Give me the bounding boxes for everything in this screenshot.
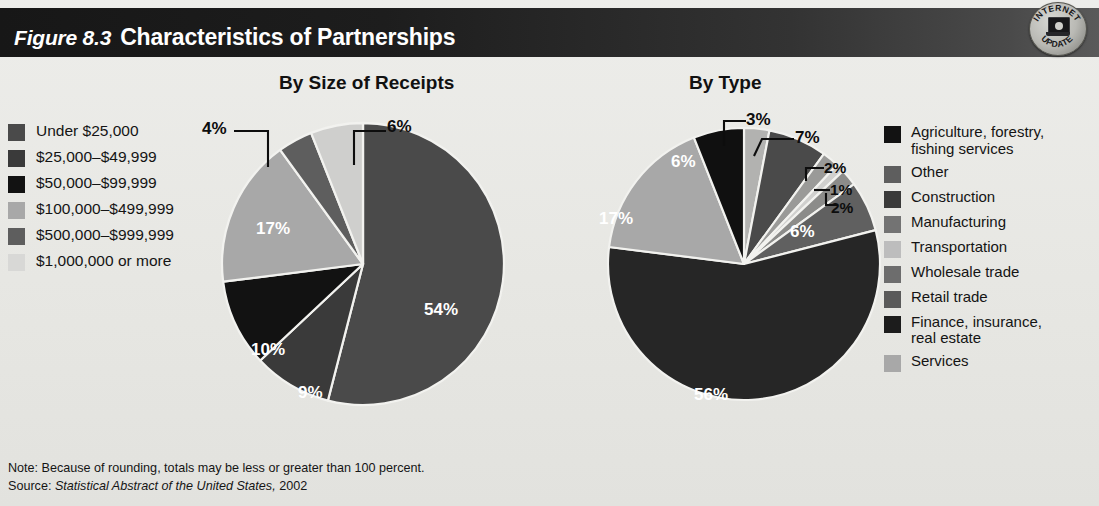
- legend-item[interactable]: Construction: [884, 189, 1094, 208]
- footer-source: Source: Statistical Abstract of the Unit…: [8, 478, 708, 496]
- figure-number: Figure 8.3: [14, 26, 111, 49]
- leader-line-6: [348, 125, 408, 175]
- chart-title-by-size-of-receipts: By Size of Receipts: [279, 72, 454, 94]
- slice-label-6-agriculture: 6%: [671, 152, 696, 172]
- figure-title-text: Characteristics of Partnerships: [120, 24, 455, 50]
- legend-item-label: Finance, insurance,real estate: [911, 314, 1042, 348]
- page-title: Figure 8.3Characteristics of Partnership…: [14, 24, 455, 51]
- legend-swatch-icon: [884, 316, 901, 333]
- slice-label-4: 4%: [202, 119, 227, 139]
- legend-item[interactable]: $25,000–$49,999: [8, 148, 198, 167]
- legend-by-type: Agriculture, forestry,fishing services O…: [884, 124, 1094, 378]
- legend-swatch-icon: [884, 241, 901, 258]
- legend-item[interactable]: Wholesale trade: [884, 264, 1094, 283]
- legend-swatch-icon: [884, 191, 901, 208]
- legend-item-label: $25,000–$49,999: [36, 148, 157, 165]
- slice-label-10: 10%: [251, 340, 285, 360]
- legend-item-label: Other: [911, 164, 949, 181]
- legend-swatch-icon: [884, 355, 901, 372]
- legend-swatch-icon: [884, 291, 901, 308]
- slice-label-9: 9%: [298, 383, 323, 403]
- legend-swatch-icon: [884, 266, 901, 283]
- legend-item-label: $1,000,000 or more: [36, 252, 171, 269]
- legend-swatch-icon: [884, 126, 901, 143]
- legend-swatch-icon: [8, 124, 25, 141]
- legend-swatch-icon: [8, 202, 25, 219]
- legend-swatch-icon: [8, 150, 25, 167]
- legend-item-label: $500,000–$999,999: [36, 226, 174, 243]
- legend-item-label: Manufacturing: [911, 214, 1006, 231]
- legend-item[interactable]: Manufacturing: [884, 214, 1094, 233]
- legend-item-label: Construction: [911, 189, 995, 206]
- legend-item[interactable]: Under $25,000: [8, 122, 198, 141]
- legend-item[interactable]: Services: [884, 353, 1094, 372]
- footer-note: Note: Because of rounding, totals may be…: [8, 460, 708, 478]
- legend-by-size-of-receipts: Under $25,000 $25,000–$49,999 $50,000–$9…: [8, 122, 198, 278]
- legend-item[interactable]: $100,000–$499,999: [8, 200, 198, 219]
- chart-title-by-type: By Type: [689, 72, 762, 94]
- legend-item-label: Under $25,000: [36, 122, 139, 139]
- slice-label-56: 56%: [694, 385, 728, 405]
- slice-label-6-wholesale: 6%: [790, 222, 815, 242]
- legend-item-label: Retail trade: [911, 289, 988, 306]
- badge-ring-text: INTERNET UPDATE: [1029, 2, 1085, 54]
- legend-item-label: Wholesale trade: [911, 264, 1019, 281]
- internet-update-badge[interactable]: INTERNET UPDATE: [1029, 2, 1091, 58]
- legend-swatch-icon: [884, 216, 901, 233]
- legend-swatch-icon: [884, 166, 901, 183]
- legend-swatch-icon: [8, 176, 25, 193]
- legend-item-label: Transportation: [911, 239, 1007, 256]
- legend-item[interactable]: $500,000–$999,999: [8, 226, 198, 245]
- legend-item[interactable]: Retail trade: [884, 289, 1094, 308]
- figure-root: Figure 8.3Characteristics of Partnership…: [0, 0, 1099, 506]
- slice-label-54: 54%: [424, 300, 458, 320]
- slice-label-17-services: 17%: [599, 209, 633, 229]
- legend-item[interactable]: Finance, insurance,real estate: [884, 314, 1094, 348]
- legend-item-label: $100,000–$499,999: [36, 200, 174, 217]
- legend-item[interactable]: $50,000–$99,999: [8, 174, 198, 193]
- legend-item[interactable]: $1,000,000 or more: [8, 252, 198, 271]
- leader-line-7: [748, 134, 808, 174]
- leader-line-2b: [806, 190, 846, 222]
- figure-header-bar: Figure 8.3Characteristics of Partnership…: [0, 8, 1099, 57]
- legend-item-label: $50,000–$99,999: [36, 174, 157, 191]
- legend-item-label: Agriculture, forestry,fishing services: [911, 124, 1044, 158]
- badge-top-text: INTERNET: [1031, 3, 1083, 24]
- figure-footer: Note: Because of rounding, totals may be…: [8, 460, 708, 496]
- legend-item[interactable]: Other: [884, 164, 1094, 183]
- slice-label-17: 17%: [256, 219, 290, 239]
- legend-swatch-icon: [8, 228, 25, 245]
- leader-line-4: [232, 125, 292, 175]
- legend-item[interactable]: Agriculture, forestry,fishing services: [884, 124, 1094, 158]
- legend-item-label: Services: [911, 353, 969, 370]
- legend-swatch-icon: [8, 254, 25, 271]
- legend-item[interactable]: Transportation: [884, 239, 1094, 258]
- badge-bottom-text: UPDATE: [1039, 33, 1074, 49]
